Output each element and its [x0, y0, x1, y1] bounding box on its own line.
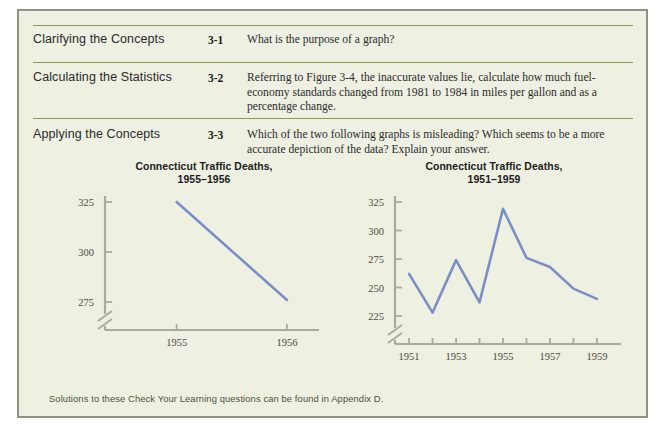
data-series-line: [409, 209, 597, 313]
question-category: Clarifying the Concepts: [33, 32, 203, 46]
question-category: Applying the Concepts: [33, 127, 203, 141]
question-number: 3-2: [208, 72, 242, 84]
chart-svg: 22525027530032519511953195519571959: [349, 190, 639, 375]
question-text: What is the purpose of a graph?: [247, 33, 626, 48]
chart-title: Connecticut Traffic Deaths, 1951–1959: [349, 161, 639, 186]
chart-plot-area: 22525027530032519511953195519571959: [349, 190, 639, 375]
chart-traffic-deaths-1955-1956: Connecticut Traffic Deaths, 1955–1956 27…: [59, 161, 349, 375]
x-tick-label: 1956: [276, 337, 297, 348]
chart-title-line2: 1955–1956: [59, 174, 349, 187]
y-tick-label: 275: [368, 254, 384, 265]
x-tick-label: 1951: [399, 351, 420, 362]
textbook-page-panel: Clarifying the Concepts 3-1 What is the …: [17, 9, 648, 418]
y-tick-label: 250: [368, 283, 384, 294]
x-tick-label: 1959: [586, 351, 607, 362]
y-tick-label: 325: [368, 197, 384, 208]
question-category: Calculating the Statistics: [33, 70, 203, 84]
y-tick-label: 225: [368, 311, 384, 322]
chart-title: Connecticut Traffic Deaths, 1955–1956: [59, 161, 349, 186]
divider-rule-middle: [33, 62, 633, 63]
question-number: 3-1: [208, 34, 242, 46]
x-tick-label: 1955: [493, 351, 514, 362]
question-text: Referring to Figure 3-4, the inaccurate …: [247, 71, 626, 115]
x-tick-label: 1957: [539, 351, 560, 362]
question-text: Which of the two following graphs is mis…: [247, 128, 626, 157]
chart-svg: 27530032519551956: [59, 190, 349, 375]
y-tick-label: 275: [78, 297, 94, 308]
y-tick-label: 300: [368, 226, 384, 237]
chart-plot-area: 27530032519551956: [59, 190, 349, 375]
charts-area: Connecticut Traffic Deaths, 1955–1956 27…: [19, 161, 646, 376]
chart-title-line1: Connecticut Traffic Deaths,: [59, 161, 349, 174]
divider-rule-top: [33, 25, 633, 26]
chart-traffic-deaths-1951-1959: Connecticut Traffic Deaths, 1951–1959 22…: [349, 161, 639, 375]
y-tick-label: 325: [78, 197, 94, 208]
footer-note: Solutions to these Check Your Learning q…: [49, 393, 383, 404]
chart-title-line1: Connecticut Traffic Deaths,: [349, 161, 639, 174]
x-tick-label: 1955: [166, 337, 187, 348]
divider-rule-bottom: [33, 118, 633, 119]
x-tick-label: 1953: [446, 351, 467, 362]
question-number: 3-3: [208, 129, 242, 141]
chart-title-line2: 1951–1959: [349, 174, 639, 187]
y-tick-label: 300: [78, 247, 94, 258]
data-series-line: [177, 202, 287, 300]
